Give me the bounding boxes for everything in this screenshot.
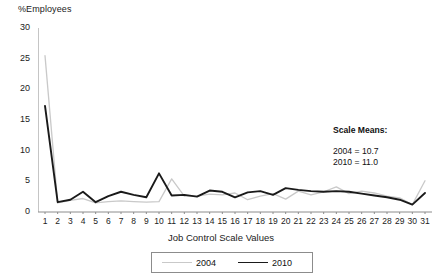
y-tick-label-5: 5 [4, 175, 30, 185]
y-tick-label-0: 0 [4, 206, 30, 216]
scale-means-heading: Scale Means: [333, 125, 387, 137]
x-axis-title: Job Control Scale Values [0, 232, 442, 243]
y-tick-label-20: 20 [4, 83, 30, 93]
y-axis-title: %Employees [18, 4, 72, 14]
chart-svg [38, 28, 432, 214]
legend-label-2010: 2010 [272, 258, 292, 268]
legend-swatch-2004 [162, 262, 192, 263]
chart-figure: %Employees 051015202530 1234567891011121… [0, 0, 442, 277]
axis-lines [38, 28, 432, 212]
plot-area [38, 28, 432, 214]
y-tick-label-10: 10 [4, 145, 30, 155]
legend-label-2004: 2004 [196, 258, 216, 268]
scale-mean-2004: 2004 = 10.7 [333, 146, 379, 158]
y-tick-label-15: 15 [4, 114, 30, 124]
legend-swatch-2010 [238, 262, 268, 263]
legend-item-2010[interactable]: 2010 [238, 253, 292, 272]
y-tick-label-30: 30 [4, 22, 30, 32]
y-tick-label-25: 25 [4, 53, 30, 63]
scale-mean-2010: 2010 = 11.0 [333, 157, 378, 169]
x-tick-label-31: 31 [416, 216, 434, 226]
chart-legend: 2004 2010 [151, 252, 313, 273]
legend-item-2004[interactable]: 2004 [162, 253, 216, 272]
